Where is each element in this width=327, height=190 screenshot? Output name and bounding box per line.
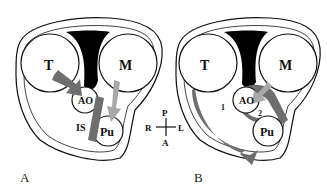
label-m-a: M xyxy=(119,58,132,73)
panel-label-a: A xyxy=(20,170,30,185)
marker-2-b: 2 xyxy=(258,109,262,118)
label-ao-b: AO xyxy=(239,95,254,106)
diagram-canvas: T M AO Pu IS A P R L A T M AO Pu 1 2 B xyxy=(0,0,327,190)
compass-a: A xyxy=(162,138,169,148)
compass-p: P xyxy=(162,108,168,118)
panel-a: T M AO Pu IS A xyxy=(16,18,162,185)
panel-b: T M AO Pu 1 2 B xyxy=(176,18,320,185)
label-pu-a: Pu xyxy=(100,125,114,139)
label-ao-a: AO xyxy=(78,95,93,106)
orientation-compass: P R L A xyxy=(145,108,184,148)
label-m-b: M xyxy=(279,58,292,73)
compass-l: L xyxy=(178,123,184,133)
panel-label-b: B xyxy=(194,170,203,185)
marker-1-b: 1 xyxy=(221,103,225,112)
label-pu-b: Pu xyxy=(260,125,274,139)
label-is-a: IS xyxy=(76,122,86,133)
compass-r: R xyxy=(145,123,152,133)
label-t-b: T xyxy=(200,58,210,73)
label-t-a: T xyxy=(44,58,54,73)
